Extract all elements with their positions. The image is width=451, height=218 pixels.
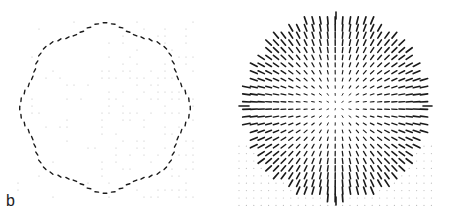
left-vector-field-plot: b bbox=[0, 0, 225, 218]
radial-disc-field bbox=[225, 0, 451, 218]
ring-tangent-field bbox=[0, 0, 225, 218]
right-vector-field-plot bbox=[225, 0, 451, 218]
panel-label: b bbox=[6, 193, 15, 209]
